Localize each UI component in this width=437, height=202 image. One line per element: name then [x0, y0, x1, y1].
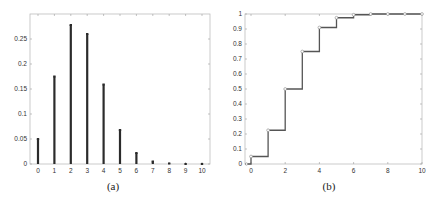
- cdf-point-marker: [267, 129, 270, 132]
- x-tick-label: 8: [386, 167, 390, 174]
- pmf-bar-cap: [119, 129, 121, 131]
- x-tick-label: 6: [135, 167, 139, 174]
- x-tick-label: 10: [418, 167, 426, 174]
- cdf-point-marker: [301, 50, 304, 53]
- y-tick-label: 0.25: [14, 35, 27, 42]
- cdf-point-marker: [245, 163, 247, 165]
- y-tick-label: 0.6: [233, 70, 242, 77]
- y-tick-label: 0.15: [14, 85, 27, 92]
- cdf-point-marker: [404, 13, 407, 16]
- pmf-bar-cap: [135, 152, 137, 154]
- y-tick-label: 0: [23, 160, 27, 167]
- caption-b: (b): [323, 180, 336, 193]
- y-tick-label: 0.1: [18, 110, 27, 117]
- cdf-step-line: [245, 14, 422, 164]
- y-tick-label: 1: [238, 10, 242, 17]
- y-tick-label: 0: [238, 160, 242, 167]
- x-tick-label: 10: [198, 167, 206, 174]
- x-tick-label: 4: [318, 167, 322, 174]
- x-tick-label: 3: [85, 167, 89, 174]
- cdf-point-marker: [250, 155, 253, 158]
- x-tick-label: 4: [102, 167, 106, 174]
- cdf-point-marker: [369, 13, 372, 16]
- x-tick-label: 0: [36, 167, 40, 174]
- cdf-point-marker: [386, 13, 389, 16]
- x-tick-label: 8: [167, 167, 171, 174]
- x-tick-label: 2: [283, 167, 287, 174]
- y-tick-label: 0.2: [233, 130, 242, 137]
- x-tick-label: 2: [69, 167, 73, 174]
- x-tick-label: 5: [118, 167, 122, 174]
- cdf-point-marker: [352, 13, 355, 16]
- y-tick-label: 0.8: [233, 40, 242, 47]
- pmf-bar-cap: [37, 138, 39, 140]
- figure: 00.050.10.150.20.25012345678910 00.10.20…: [0, 0, 437, 202]
- y-tick-label: 0.4: [233, 100, 242, 107]
- pmf-stem-chart: 00.050.10.150.20.25012345678910: [14, 14, 210, 174]
- y-tick-label: 0.1: [233, 145, 242, 152]
- x-tick-label: 0: [249, 167, 253, 174]
- axes-frame: [245, 14, 422, 164]
- cdf-point-marker: [421, 13, 424, 16]
- caption-a: (a): [107, 180, 120, 193]
- cdf-step-chart: 00.10.20.30.40.50.60.70.80.910246810: [233, 10, 426, 174]
- y-tick-label: 0.05: [14, 135, 27, 142]
- pmf-bar-cap: [168, 163, 170, 165]
- pmf-bar-cap: [152, 161, 154, 163]
- pmf-bar-cap: [102, 84, 104, 86]
- cdf-point-marker: [335, 16, 338, 19]
- pmf-bar-cap: [86, 33, 88, 35]
- y-tick-label: 0.7: [233, 55, 242, 62]
- y-tick-label: 0.3: [233, 115, 242, 122]
- x-tick-label: 1: [53, 167, 57, 174]
- pmf-bar-cap: [70, 24, 72, 26]
- y-tick-label: 0.9: [233, 25, 242, 32]
- x-tick-label: 9: [184, 167, 188, 174]
- cdf-point-marker: [284, 88, 287, 91]
- x-tick-label: 6: [352, 167, 356, 174]
- y-tick-label: 0.5: [233, 85, 242, 92]
- cdf-point-marker: [318, 26, 321, 29]
- pmf-bar-cap: [201, 163, 203, 165]
- pmf-bar-cap: [184, 163, 186, 165]
- pmf-bar-cap: [53, 76, 55, 78]
- x-tick-label: 7: [151, 167, 155, 174]
- y-tick-label: 0.2: [18, 60, 27, 67]
